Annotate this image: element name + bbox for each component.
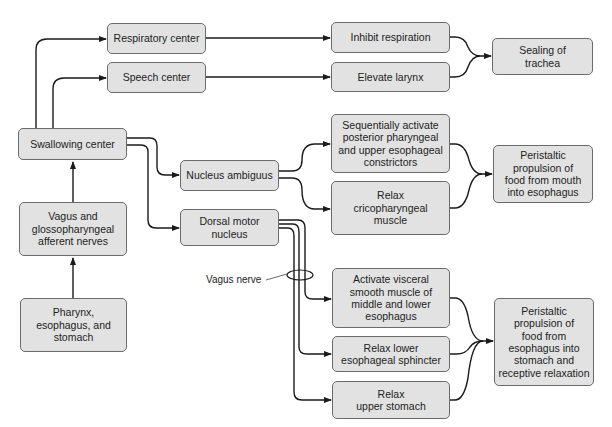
node-relax-upper-stomach: Relax upper stomach [332,381,450,419]
edge-dorsal-to-visceral [279,220,331,299]
node-speech-center: Speech center [107,62,206,93]
edge-swallowing-to-nucleus-ambiguus [127,138,179,175]
edge-visceral-to-peristaltic [450,298,493,341]
node-relax-lower-esophageal-sphincter: Relax lower esophageal sphincter [332,336,450,372]
edge-swallowing-to-respiratory [36,39,106,128]
edge-sequential-to-peristaltic [450,144,492,174]
node-elevate-larynx: Elevate larynx [331,62,450,92]
edge-swallowing-to-speech [53,78,106,128]
node-relax-cricopharyngeal: Relax cricopharyngeal muscle [331,181,450,235]
edge-nucleus-to-crico [279,178,330,209]
edge-crico-to-peristaltic [450,174,482,208]
edge-elevate-to-sealing [450,56,480,77]
node-vagus-glossopharyngeal-afferent: Vagus and glossopharyngeal afferent nerv… [19,202,127,256]
node-nucleus-ambiguus: Nucleus ambiguus [180,160,279,191]
edge-upper-stomach-to-peristaltic [450,341,483,400]
node-pharynx-esophagus-stomach: Pharynx, esophagus, and stomach [20,298,127,352]
vagus-nerve-bundle-ring [287,270,313,280]
node-sequentially-activate-constrictors: Sequentially activate posterior pharynge… [331,114,450,173]
node-peristaltic-mouth-to-esophagus: Peristaltic propulsion of food from mout… [493,145,593,203]
node-inhibit-respiration: Inhibit respiration [331,22,450,53]
node-activate-visceral-smooth-muscle: Activate visceral smooth muscle of middl… [332,268,450,328]
edge-inhibit-to-sealing [450,37,491,56]
node-sealing-of-trachea: Sealing of trachea [492,38,593,75]
node-swallowing-center: Swallowing center [18,128,127,160]
vagus-nerve-label: Vagus nerve [206,274,261,285]
node-respiratory-center: Respiratory center [107,23,206,54]
node-peristaltic-esophagus-to-stomach: Peristaltic propulsion of food from esop… [494,298,594,386]
node-dorsal-motor-nucleus: Dorsal motor nucleus [180,209,279,246]
edge-nucleus-to-sequential [279,144,330,171]
vagus-nerve-leader-line [266,274,287,280]
edge-swallowing-to-dorsal-motor [127,145,179,228]
